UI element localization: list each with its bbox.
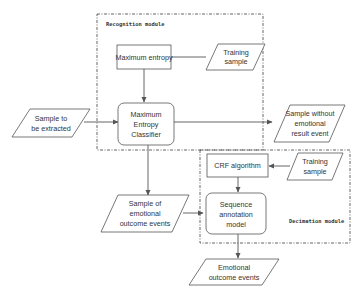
svg-text:Sample to: Sample to (35, 114, 67, 123)
svg-text:emotional: emotional (129, 209, 161, 218)
node-crf-algorithm: CRF algorithm (207, 154, 268, 177)
svg-text:outcome events: outcome events (120, 219, 171, 228)
svg-text:Maximum entropy: Maximum entropy (115, 53, 173, 62)
recognition-module-label: Recognition module (106, 21, 165, 28)
node-sequence-annotation-model: Sequence annotation model (206, 193, 266, 234)
svg-text:Emotional: Emotional (218, 263, 250, 272)
node-emotional-outcome-events: Emotional outcome events (189, 259, 279, 285)
svg-text:sample: sample (224, 57, 247, 66)
svg-text:Training: Training (223, 48, 249, 57)
svg-text:Entropy: Entropy (134, 120, 159, 129)
flowchart-canvas: Recognition module Decimation module Max… (0, 0, 364, 298)
svg-text:Classifier: Classifier (131, 130, 161, 139)
svg-text:result event: result event (291, 129, 328, 138)
svg-text:emotional: emotional (294, 119, 326, 128)
svg-text:Maximum: Maximum (130, 110, 161, 119)
svg-text:Sample of: Sample of (129, 199, 161, 208)
svg-text:Sequence: Sequence (220, 200, 252, 209)
svg-text:Sample without: Sample without (285, 109, 334, 118)
node-maximum-entropy: Maximum entropy (115, 45, 173, 69)
flowchart-svg: Recognition module Decimation module Max… (0, 0, 364, 298)
svg-text:Training: Training (302, 157, 328, 166)
node-sample-to-be-extracted: Sample to be extracted (12, 109, 90, 137)
node-max-entropy-classifier: Maximum Entropy Classifier (118, 103, 174, 145)
svg-text:be extracted: be extracted (31, 124, 71, 133)
svg-text:CRF algorithm: CRF algorithm (214, 161, 260, 170)
node-training-sample-2: Training sample (287, 153, 343, 180)
decision-module-label: Decimation module (289, 218, 345, 224)
svg-text:annotation: annotation (219, 210, 253, 219)
svg-text:model: model (226, 220, 246, 229)
node-sample-without-emotional-event: Sample without emotional result event (274, 105, 345, 142)
node-sample-of-emotional-outcome-events: Sample of emotional outcome events (101, 195, 189, 232)
svg-text:outcome events: outcome events (209, 273, 260, 282)
svg-text:sample: sample (303, 167, 326, 176)
node-training-sample-1: Training sample (206, 44, 265, 70)
